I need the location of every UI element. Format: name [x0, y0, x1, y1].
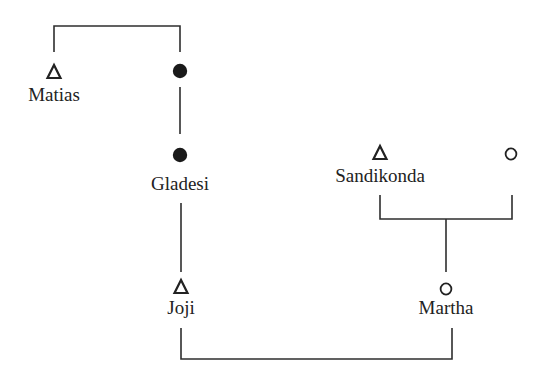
marriage-bracket-sandikonda	[380, 195, 512, 219]
triangle-icon	[175, 280, 188, 293]
label-sandikonda: Sandikonda	[335, 165, 425, 186]
filled-circle-icon	[173, 64, 187, 78]
node-joji: Joji	[167, 280, 194, 318]
node-gladesi: Gladesi	[151, 148, 209, 194]
kinship-diagram: Matias Gladesi Sandikonda Joji Martha	[0, 0, 541, 377]
open-circle-icon	[441, 283, 452, 294]
label-martha: Martha	[419, 297, 474, 318]
open-circle-icon	[506, 148, 517, 159]
node-sandikonda-spouse	[506, 148, 517, 159]
filled-circle-icon	[173, 148, 187, 162]
marriage-bracket-joji-martha	[181, 328, 452, 359]
label-gladesi: Gladesi	[151, 173, 209, 194]
node-martha: Martha	[419, 283, 474, 318]
node-sandikonda: Sandikonda	[335, 146, 425, 186]
marriage-bracket-matias	[54, 26, 180, 52]
triangle-icon	[48, 65, 61, 78]
triangle-icon	[374, 146, 387, 159]
label-matias: Matias	[28, 84, 80, 105]
node-matias-spouse	[173, 64, 187, 78]
node-matias: Matias	[28, 65, 80, 105]
label-joji: Joji	[167, 297, 194, 318]
